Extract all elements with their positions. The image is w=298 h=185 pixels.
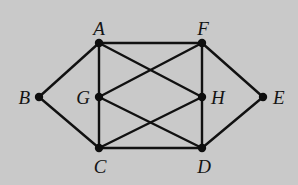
node-b: [35, 93, 43, 101]
node-label-b: B: [18, 87, 30, 108]
node-c: [95, 144, 103, 152]
graph-diagram: ABCDEFGH: [0, 0, 298, 185]
nodes-group: [35, 39, 267, 152]
edge-a-b: [39, 43, 99, 97]
node-label-g: G: [76, 87, 90, 108]
node-label-a: A: [91, 18, 105, 39]
edges-group: [39, 43, 263, 148]
node-a: [95, 39, 103, 47]
node-label-f: F: [196, 18, 209, 39]
node-g: [95, 93, 103, 101]
node-label-e: E: [272, 87, 285, 108]
node-label-c: C: [94, 156, 107, 177]
edge-b-c: [39, 97, 99, 148]
node-h: [198, 93, 206, 101]
node-f: [198, 39, 206, 47]
node-label-h: H: [210, 87, 226, 108]
node-e: [259, 93, 267, 101]
node-d: [198, 144, 206, 152]
node-label-d: D: [196, 156, 211, 177]
